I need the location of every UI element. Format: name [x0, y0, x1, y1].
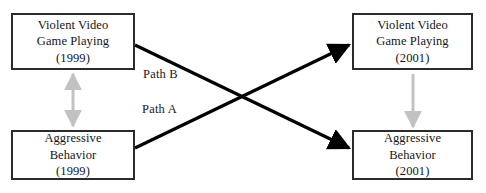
node-line-3: (2001): [396, 50, 430, 67]
node-violent-video-game-playing-2001: Violent Video Game Playing (2001): [352, 13, 473, 70]
cross-lagged-panel-diagram: Violent Video Game Playing (1999) Violen…: [0, 0, 486, 193]
node-line-1: Violent Video: [377, 17, 448, 34]
node-line-1: Aggressive: [384, 130, 441, 147]
node-line-1: Violent Video: [38, 17, 109, 34]
path-b-label: Path B: [143, 67, 178, 82]
node-line-3: (2001): [396, 163, 430, 180]
path-a-label: Path A: [142, 102, 177, 117]
node-line-1: Aggressive: [44, 130, 101, 147]
node-line-2: Behavior: [50, 147, 97, 164]
node-line-2: Game Playing: [37, 33, 109, 50]
node-aggressive-behavior-2001: Aggressive Behavior (2001): [352, 130, 473, 180]
node-line-3: (1999): [56, 163, 90, 180]
node-violent-video-game-playing-1999: Violent Video Game Playing (1999): [11, 13, 135, 70]
node-line-2: Game Playing: [376, 33, 448, 50]
node-line-3: (1999): [56, 50, 90, 67]
node-aggressive-behavior-1999: Aggressive Behavior (1999): [11, 130, 135, 180]
node-line-2: Behavior: [389, 147, 436, 164]
